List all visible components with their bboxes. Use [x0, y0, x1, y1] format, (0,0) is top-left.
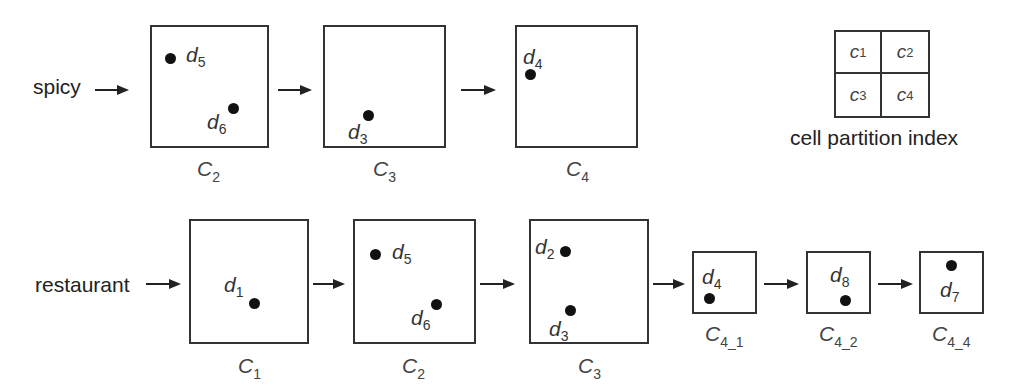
cell-caption-c2: C2: [197, 158, 220, 184]
cell-box-c1-restaurant: [189, 219, 309, 344]
point-d2: [560, 246, 571, 257]
point-label-d3: d3: [348, 121, 367, 146]
cell-caption-c3: C3: [373, 158, 396, 184]
point-d4: [704, 293, 715, 304]
legend-caption: cell partition index: [790, 126, 958, 150]
partition-cell-c4: c4: [882, 74, 928, 116]
partition-cell-c2: c2: [882, 32, 928, 74]
arrow-icon: [461, 89, 494, 91]
point-d1: [249, 298, 260, 309]
point-d3: [565, 305, 576, 316]
point-label-d3: d3: [549, 318, 568, 343]
arrow-icon: [146, 283, 179, 285]
point-d6: [431, 299, 442, 310]
cell-box-c4-spicy: [515, 25, 638, 148]
arrow-icon: [278, 89, 310, 91]
arrow-icon: [313, 283, 343, 285]
point-label-d5: d5: [392, 241, 411, 266]
point-d8: [840, 295, 851, 306]
partition-grid: c1 c2 c3 c4: [834, 30, 930, 118]
point-label-d5: d5: [186, 44, 205, 69]
point-d5: [165, 53, 176, 64]
cell-caption-c2: C2: [402, 355, 425, 381]
arrow-icon: [764, 283, 797, 285]
point-label-d2: d2: [535, 236, 554, 261]
term-label-spicy: spicy: [33, 76, 81, 97]
term-label-restaurant: restaurant: [35, 274, 130, 295]
point-d6: [228, 103, 239, 114]
cell-caption-c3: C3: [578, 355, 601, 381]
arrow-icon: [95, 89, 127, 91]
arrow-icon: [878, 283, 911, 285]
point-d7: [946, 260, 957, 271]
cell-caption-c4-4: C4_4: [932, 323, 971, 349]
point-label-d8: d8: [830, 264, 849, 289]
point-d5: [370, 249, 381, 260]
point-label-d6: d6: [207, 111, 226, 136]
point-label-d6: d6: [411, 307, 430, 332]
point-label-d4: d4: [702, 266, 721, 291]
cell-caption-c1: C1: [238, 355, 261, 381]
point-label-d7: d7: [940, 279, 959, 304]
cell-caption-c4: C4: [566, 158, 589, 184]
partition-cell-c3: c3: [836, 74, 882, 116]
arrow-icon: [653, 283, 683, 285]
cell-caption-c4-1: C4_1: [705, 323, 744, 349]
partition-cell-c1: c1: [836, 32, 882, 74]
cell-caption-c4-2: C4_2: [819, 323, 858, 349]
point-label-d1: d1: [224, 274, 243, 299]
point-d3: [363, 110, 374, 121]
arrow-icon: [480, 283, 513, 285]
point-label-d4: d4: [523, 46, 542, 71]
cell-box-c3-spicy: [323, 25, 446, 148]
